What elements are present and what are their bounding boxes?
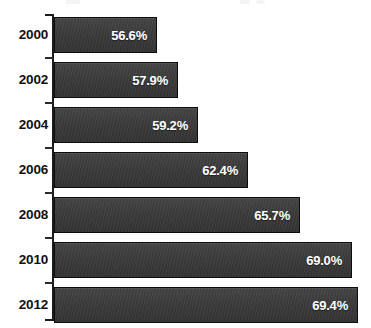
bar-chart: 200056.6%200257.9%200459.2%200662.4%2008… [0, 0, 371, 328]
category-label-2008: 2008 [0, 208, 48, 222]
bar-row: 200257.9% [0, 62, 371, 98]
cropped-text-artifact [256, 0, 265, 4]
bar-value-label-2004: 59.2% [152, 119, 188, 132]
category-label-2010: 2010 [0, 253, 48, 267]
bar-value-label-2002: 57.9% [132, 74, 168, 87]
bar-value-label-2008: 65.7% [254, 209, 290, 222]
category-label-2006: 2006 [0, 163, 48, 177]
cropped-text-artifact [66, 0, 80, 4]
bar-row: 200865.7% [0, 197, 371, 233]
bar-row: 200056.6% [0, 17, 371, 53]
bar-value-label-2010: 69.0% [306, 254, 342, 267]
cropped-text-artifact [240, 0, 250, 4]
bar-row: 201269.4% [0, 287, 371, 323]
category-label-2004: 2004 [0, 118, 48, 132]
bar-2010: 69.0% [54, 242, 352, 278]
category-label-2012: 2012 [0, 298, 48, 312]
axis-tick-3 [45, 147, 53, 149]
bar-2002: 57.9% [54, 62, 178, 98]
axis-tick-6 [45, 282, 53, 284]
bar-value-label-2006: 62.4% [202, 164, 238, 177]
bar-value-label-2012: 69.4% [312, 299, 348, 312]
bar-value-label-2000: 56.6% [111, 29, 147, 42]
bar-2008: 65.7% [54, 197, 300, 233]
bar-2012: 69.4% [54, 287, 358, 323]
bar-row: 200662.4% [0, 152, 371, 188]
axis-tick-4 [45, 192, 53, 194]
bar-2000: 56.6% [54, 17, 157, 53]
axis-cap-top [45, 14, 54, 16]
category-label-2000: 2000 [0, 28, 48, 42]
axis-tick-5 [45, 237, 53, 239]
bar-2006: 62.4% [54, 152, 248, 188]
category-label-2002: 2002 [0, 73, 48, 87]
axis-tick-2 [45, 102, 53, 104]
axis-tick-1 [45, 57, 53, 59]
bar-row: 201069.0% [0, 242, 371, 278]
bar-2004: 59.2% [54, 107, 198, 143]
bar-row: 200459.2% [0, 107, 371, 143]
